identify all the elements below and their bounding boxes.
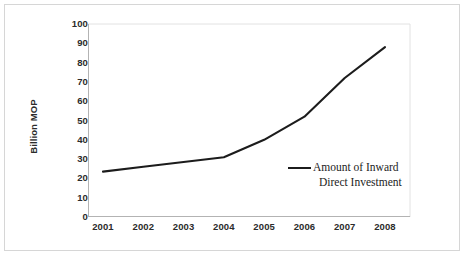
x-tick-label: 2004	[202, 221, 246, 233]
y-tick-label: 30	[58, 154, 88, 164]
x-tick-label: 2007	[323, 221, 367, 233]
y-tick-label: 20	[58, 173, 88, 183]
x-tick-label: 2006	[282, 221, 326, 233]
y-tick-label: 10	[58, 193, 88, 203]
y-axis-title-label: Billion MOP	[28, 99, 39, 153]
legend-label-line-2: Direct Investment	[313, 175, 402, 190]
x-axis-tick-labels: 20012002200320042005200620072008	[90, 221, 410, 237]
y-axis-title: Billion MOP	[26, 86, 40, 166]
chart-figure: Billion MOP 0102030405060708090100 20012…	[0, 0, 464, 255]
y-tick-label: 80	[58, 58, 88, 68]
y-axis-tick-labels: 0102030405060708090100	[58, 18, 88, 220]
y-tick-label: 60	[58, 96, 88, 106]
y-tick-label: 50	[58, 116, 88, 126]
legend-label: Amount of Inward Direct Investment	[313, 160, 402, 190]
x-tick-label: 2001	[81, 221, 125, 233]
x-tick-label: 2002	[121, 221, 165, 233]
chart-legend: Amount of Inward Direct Investment	[288, 160, 402, 190]
y-tick-label: 90	[58, 38, 88, 48]
x-tick-label: 2008	[363, 221, 407, 233]
x-tick-label: 2005	[242, 221, 286, 233]
legend-label-line-1: Amount of Inward	[313, 160, 402, 175]
y-tick-label: 100	[58, 19, 88, 29]
y-tick-label: 40	[58, 135, 88, 145]
legend-line-marker	[288, 167, 311, 169]
y-tick-label: 70	[58, 77, 88, 87]
x-tick-label: 2003	[162, 221, 206, 233]
